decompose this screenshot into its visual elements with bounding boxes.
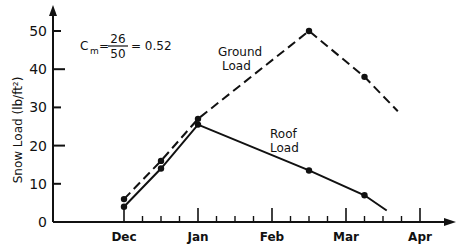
snow-load-chart: 01020304050 DecJanFebMarApr Snow Load (l…: [0, 0, 459, 248]
roof-load-point: [195, 121, 201, 127]
formula-equals: =: [99, 39, 109, 53]
y-tick-label: 20: [29, 138, 47, 154]
formula-lhs: C: [80, 39, 88, 53]
roof-load-label: Roof Load: [270, 127, 299, 155]
y-tick-label: 30: [29, 99, 47, 115]
ground-load-point: [121, 196, 127, 202]
x-tick-label: Mar: [333, 230, 359, 244]
formula-numerator: 26: [110, 32, 125, 46]
x-tick-label: Apr: [408, 230, 432, 244]
x-tick-label: Feb: [260, 230, 285, 244]
ground-load-label: Ground Load: [218, 45, 262, 73]
y-tick-label: 50: [29, 23, 47, 39]
y-tick-label: 40: [29, 61, 47, 77]
x-ticks: DecJanFebMarApr: [111, 208, 432, 244]
y-ticks: 01020304050: [29, 23, 65, 230]
roof-load-point: [361, 192, 367, 198]
ground-load-point: [158, 158, 164, 164]
roof-label-line1: Roof: [270, 127, 297, 141]
x-tick-label: Jan: [186, 230, 208, 244]
formula-denominator: 50: [110, 47, 125, 61]
formula-subscript: m: [90, 46, 99, 56]
y-tick-label: 10: [29, 176, 47, 192]
ground-load-point: [361, 74, 367, 80]
roof-label-line2: Load: [270, 141, 299, 155]
ground-label-line1: Ground: [218, 45, 262, 59]
y-axis-label: Snow Load (lb/ft²): [11, 77, 25, 184]
cm-formula: C m = 26 50 = 0.52: [80, 32, 172, 61]
y-axis-arrow: [49, 5, 57, 16]
roof-load-point: [121, 204, 127, 210]
ground-load-point: [195, 116, 201, 122]
roof-load-point: [158, 165, 164, 171]
ground-load-point: [306, 28, 312, 34]
y-tick-label: 0: [38, 214, 47, 230]
roof-load-point: [306, 167, 312, 173]
formula-result: = 0.52: [131, 39, 172, 53]
x-axis-arrow: [444, 218, 456, 226]
ground-label-line2: Load: [222, 59, 251, 73]
x-tick-label: Dec: [111, 230, 136, 244]
